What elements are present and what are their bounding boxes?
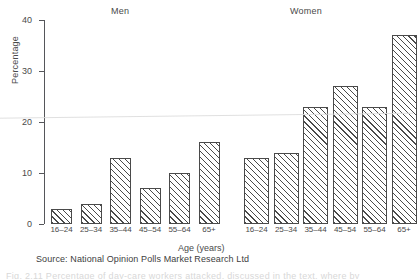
panel-title-women: Women (290, 6, 322, 16)
bar (392, 35, 417, 224)
panel-title-men: Men (111, 6, 129, 16)
y-tick-label: 40 (22, 16, 32, 25)
y-tick: 10 (39, 173, 44, 174)
bar (169, 173, 190, 224)
bar (51, 209, 72, 224)
x-tick-label: 45–54 (136, 226, 164, 234)
y-tick: 30 (39, 71, 44, 72)
bar (362, 107, 387, 224)
x-tick-label: 65+ (390, 226, 418, 234)
x-tick-label: 35–44 (107, 226, 135, 234)
x-tick-label: 25–34 (272, 226, 300, 234)
x-tick-label: 45–54 (331, 226, 359, 234)
bar (274, 153, 299, 224)
x-tick-label: 25–34 (77, 226, 105, 234)
x-axis-title: Age (years) (178, 243, 225, 253)
x-tick-label: 16–24 (48, 226, 76, 234)
x-tick-label: 35–44 (302, 226, 330, 234)
y-tick: 20 (39, 122, 44, 123)
y-tick: 40 (39, 20, 44, 21)
bar (81, 204, 102, 224)
y-tick-label: 30 (22, 67, 32, 76)
x-tick-label: 65+ (195, 226, 223, 234)
y-tick-label: 10 (22, 169, 32, 178)
y-tick: 0 (39, 224, 44, 225)
plot-area: 010203040 16–2425–3435–4445–5455–6465+16… (44, 20, 409, 224)
x-tick-label: 55–64 (361, 226, 389, 234)
figure-caption-clipped: Fig. 2.11 Percentage of day-care workers… (6, 271, 407, 279)
source-note: Source: National Opinion Polls Market Re… (36, 254, 249, 264)
bar (140, 188, 161, 224)
x-tick-label: 55–64 (166, 226, 194, 234)
bar (244, 158, 269, 224)
y-tick-label: 20 (22, 118, 32, 127)
x-tick-label: 16–24 (243, 226, 271, 234)
bar (110, 158, 131, 224)
y-axis-line (44, 20, 45, 224)
y-axis-title: Percentage (10, 36, 20, 84)
bar (199, 142, 220, 224)
y-tick-label: 0 (27, 220, 32, 229)
bar (303, 107, 328, 224)
bar (333, 86, 358, 224)
